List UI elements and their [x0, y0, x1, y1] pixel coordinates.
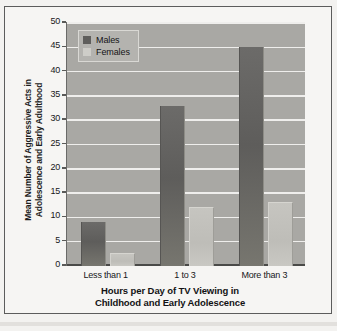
legend: MalesFemales [78, 30, 139, 62]
legend-label: Males [96, 35, 120, 45]
y-axis-tick-mark [62, 118, 66, 120]
plot-inner: MalesFemales [67, 23, 305, 266]
x-axis-tick-label: 1 to 3 [145, 270, 225, 280]
y-axis-tick-mark [62, 167, 66, 169]
bar-females-less-than-1 [110, 253, 135, 266]
y-axis-tick-mark [62, 21, 66, 23]
y-axis-tick-label: 40 [38, 65, 60, 75]
y-axis-tick-label: 15 [38, 186, 60, 196]
gridline [67, 71, 305, 73]
x-axis-title-line2: Childhood and Early Adolescence [95, 297, 245, 308]
y-axis-tick-label: 0 [38, 259, 60, 269]
y-axis-title: Mean Number of Aggressive Acts in Adoles… [23, 45, 45, 255]
gridline [67, 192, 305, 194]
bar-females-1-to-3 [189, 207, 214, 266]
gridline [67, 144, 305, 146]
y-axis-tick-mark [62, 94, 66, 96]
y-axis-title-line2: Adolescence and Early Adulthood [34, 83, 44, 218]
y-axis-tick-label: 35 [38, 89, 60, 99]
legend-item-females: Females [83, 46, 130, 58]
legend-swatch-icon-males [83, 36, 91, 44]
scan-edge-strip [0, 322, 337, 326]
gridline [67, 168, 305, 170]
x-axis-tick-label: More than 3 [224, 270, 304, 280]
y-axis-title-line1: Mean Number of Aggressive Acts in [23, 79, 33, 221]
y-axis-tick-mark [62, 70, 66, 72]
y-axis-tick-mark [62, 264, 66, 266]
y-axis-tick-label: 50 [38, 16, 60, 26]
legend-swatch-icon-females [83, 48, 91, 56]
y-axis-tick-mark [62, 191, 66, 193]
y-axis-tick-label: 10 [38, 210, 60, 220]
legend-label: Females [96, 47, 130, 57]
y-axis-tick-label: 5 [38, 235, 60, 245]
bar-chart-figure: Mean Number of Aggressive Acts in Adoles… [0, 0, 337, 331]
gridline [67, 22, 305, 24]
y-axis-tick-label: 25 [38, 138, 60, 148]
y-axis-tick-mark [62, 216, 66, 218]
plot-area: MalesFemales [66, 22, 305, 266]
gridline [67, 119, 305, 121]
y-axis-tick-mark [62, 143, 66, 145]
legend-item-males: Males [83, 34, 130, 46]
y-axis-tick-label: 30 [38, 113, 60, 123]
bar-females-more-than-3 [268, 202, 293, 266]
x-axis-title: Hours per Day of TV Viewing in Childhood… [20, 285, 320, 309]
y-axis-tick-mark [62, 240, 66, 242]
x-axis-tick-label: Less than 1 [66, 270, 146, 280]
bar-males-1-to-3 [160, 106, 185, 266]
gridline [67, 95, 305, 97]
y-axis-tick-label: 20 [38, 162, 60, 172]
y-axis-tick-mark [62, 46, 66, 48]
y-axis-tick-label: 45 [38, 40, 60, 50]
x-axis-title-line1: Hours per Day of TV Viewing in [101, 285, 239, 296]
bar-males-more-than-3 [239, 47, 264, 266]
bar-males-less-than-1 [81, 222, 106, 266]
